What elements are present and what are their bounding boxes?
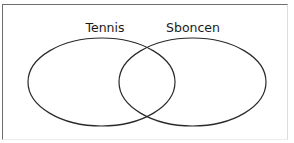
venn-diagram: Tennis Sboncen <box>0 0 294 143</box>
set-label-sboncen: Sboncen <box>166 20 220 35</box>
set-label-tennis: Tennis <box>84 20 124 35</box>
set-circle-tennis <box>28 38 175 126</box>
set-circle-sboncen <box>119 38 266 126</box>
